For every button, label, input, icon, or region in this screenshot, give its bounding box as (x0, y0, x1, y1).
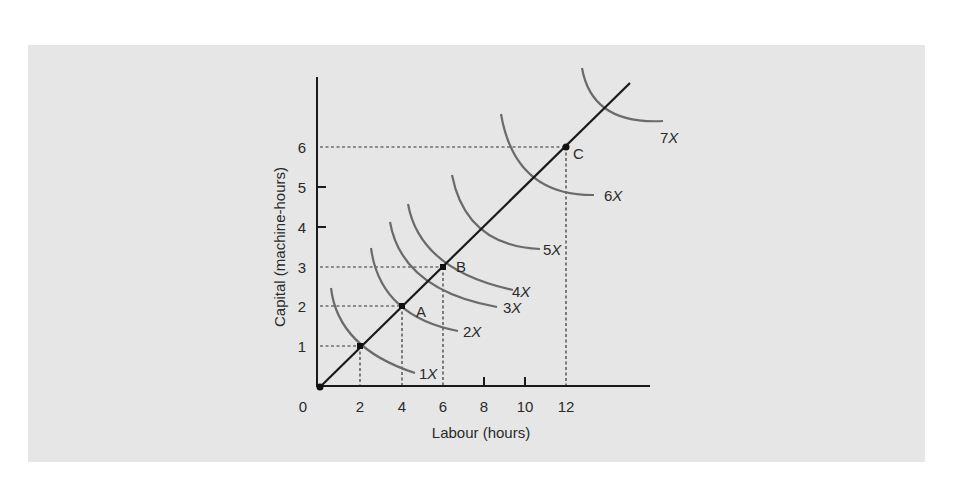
isoquant-label-5x: 5X (543, 241, 562, 258)
isoquant-label-2x: 2X (463, 323, 482, 340)
y-tick-label-1: 1 (298, 338, 306, 355)
isoquant-5x (452, 175, 540, 249)
x-tick-label-2: 2 (356, 398, 364, 415)
y-tick-label-5: 5 (298, 179, 306, 196)
point-label-c: C (573, 145, 584, 162)
point-label-b: B (456, 258, 466, 275)
x-tick-label-6: 6 (439, 398, 447, 415)
x-tick-label-4: 4 (398, 398, 406, 415)
x-tick-label-12: 12 (558, 398, 575, 415)
isoquant-2x (371, 248, 458, 331)
x-tick-label-8: 8 (480, 398, 488, 415)
isoquant-chart: A B C 1X 2X 3X 4X 5X 6X 7X 1 2 3 4 5 6 0… (0, 0, 954, 496)
y-tick-label-4: 4 (298, 219, 306, 236)
x-tick-label-0: 0 (299, 398, 307, 415)
point-origin (317, 384, 324, 391)
x-axis-title: Labour (hours) (432, 424, 530, 441)
point-label-a: A (416, 303, 426, 320)
expansion-path-ray (320, 83, 630, 387)
point-2-1 (357, 343, 363, 349)
y-tick-label-3: 3 (298, 259, 306, 276)
y-axis-title: Capital (machine-hours) (271, 167, 288, 327)
isoquant-label-6x: 6X (604, 187, 623, 204)
isoquant-7x (582, 68, 663, 121)
isoquant-label-7x: 7X (660, 129, 679, 146)
y-tick-label-2: 2 (298, 298, 306, 315)
point-a (399, 303, 405, 309)
isoquant-label-3x: 3X (503, 299, 522, 316)
y-tick-label-6: 6 (298, 139, 306, 156)
isoquant-label-1x: 1X (419, 365, 438, 382)
x-tick-label-10: 10 (517, 398, 534, 415)
isoquant-label-4x: 4X (512, 283, 531, 300)
x-tick-labels: 0 2 4 6 8 10 12 (299, 398, 575, 415)
point-b (440, 264, 446, 270)
y-tick-labels: 1 2 3 4 5 6 (298, 139, 306, 355)
point-c (563, 144, 570, 151)
